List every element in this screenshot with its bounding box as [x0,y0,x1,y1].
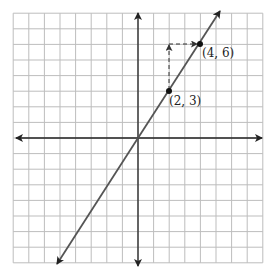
point-label-4-6: (4, 6) [202,46,234,60]
line-y-equals-1.5x [57,138,138,264]
coordinate-graph: (2, 3) (4, 6) [0,0,275,278]
line-y-equals-1.5x [138,11,220,138]
point-label-2-3: (2, 3) [169,94,201,108]
